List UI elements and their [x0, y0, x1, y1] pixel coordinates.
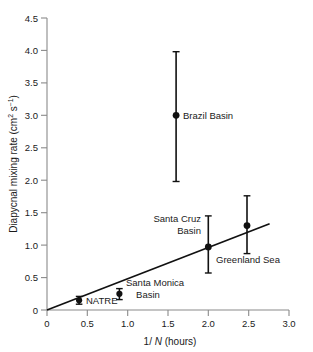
data-label-santa-cruz-basin-line1: Santa Cruz [153, 213, 201, 224]
y-tick-label: 2.0 [25, 175, 38, 186]
data-marker[interactable] [244, 222, 251, 229]
y-tick-label: 0.5 [25, 272, 38, 283]
data-label-santa-cruz-basin-line2: Basin [177, 225, 201, 236]
data-label-santa-monica-basin-line2: Basin [136, 289, 160, 300]
x-axis-ticks [47, 310, 289, 316]
x-tick-label: 0.5 [81, 318, 94, 329]
y-tick-label: 1.0 [25, 240, 38, 251]
x-tick-label: 1.0 [121, 318, 134, 329]
data-point-brazil-basin[interactable] [173, 52, 180, 182]
x-tick-label: 3.0 [282, 318, 295, 329]
x-tick-label: 2.5 [242, 318, 255, 329]
y-tick-label: 3.5 [25, 77, 38, 88]
y-tick-label: 4.5 [25, 13, 38, 24]
data-marker[interactable] [76, 297, 82, 303]
data-label-natre: NATRE [86, 295, 118, 306]
data-marker[interactable] [116, 291, 122, 297]
y-axis-tick-labels: 0 0.5 1.0 1.5 2.0 2.5 3.0 3.5 4.0 4.5 [25, 13, 38, 316]
x-axis-title: 1/ N (hours) [144, 336, 197, 347]
data-point-greenland-sea[interactable] [244, 196, 251, 254]
y-tick-label: 4.0 [25, 45, 38, 56]
x-axis-title-post: (hours) [162, 336, 196, 347]
data-point-santa-cruz-basin[interactable] [205, 216, 212, 273]
data-label-santa-monica-basin-line1: Santa Monica [126, 277, 185, 288]
y-axis-title-tail: ) [8, 95, 19, 98]
scatter-plot: 0 0.5 1.0 1.5 2.0 2.5 3.0 3.5 4.0 4.5 0 … [0, 0, 313, 352]
y-axis-title: Diapycnal mixing rate (cm2 s−1) [7, 95, 19, 233]
data-marker[interactable] [173, 112, 180, 119]
x-tick-label: 1.5 [161, 318, 174, 329]
y-tick-label: 1.5 [25, 207, 38, 218]
y-tick-label: 2.5 [25, 142, 38, 153]
y-axis-title-mid: s [8, 106, 19, 114]
data-label-greenland-sea: Greenland Sea [216, 254, 281, 265]
y-tick-label: 3.0 [25, 110, 38, 121]
data-label-brazil-basin: Brazil Basin [183, 110, 233, 121]
y-tick-label: 0 [33, 305, 38, 316]
chart-figure: 0 0.5 1.0 1.5 2.0 2.5 3.0 3.5 4.0 4.5 0 … [0, 0, 313, 352]
data-marker[interactable] [205, 244, 212, 251]
x-axis-title-pre: 1/ [144, 336, 155, 347]
y-axis-ticks [41, 18, 47, 310]
x-axis-tick-labels: 0 0.5 1.0 1.5 2.0 2.5 3.0 [44, 318, 295, 329]
x-tick-label: 0 [44, 318, 49, 329]
y-axis-title-main: Diapycnal mixing rate (cm [8, 118, 19, 233]
x-tick-label: 2.0 [202, 318, 215, 329]
